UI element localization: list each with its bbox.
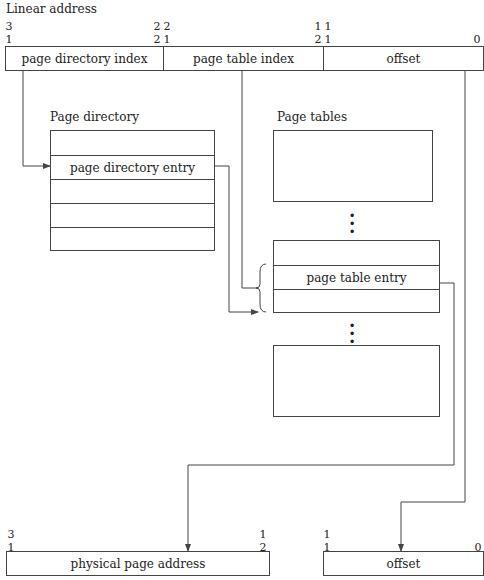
pte-arrow <box>188 283 454 551</box>
pd-index-arrow <box>23 70 50 166</box>
pde-arrow <box>215 166 258 312</box>
offset-arrow <box>401 70 465 551</box>
connector-lines <box>0 0 484 580</box>
